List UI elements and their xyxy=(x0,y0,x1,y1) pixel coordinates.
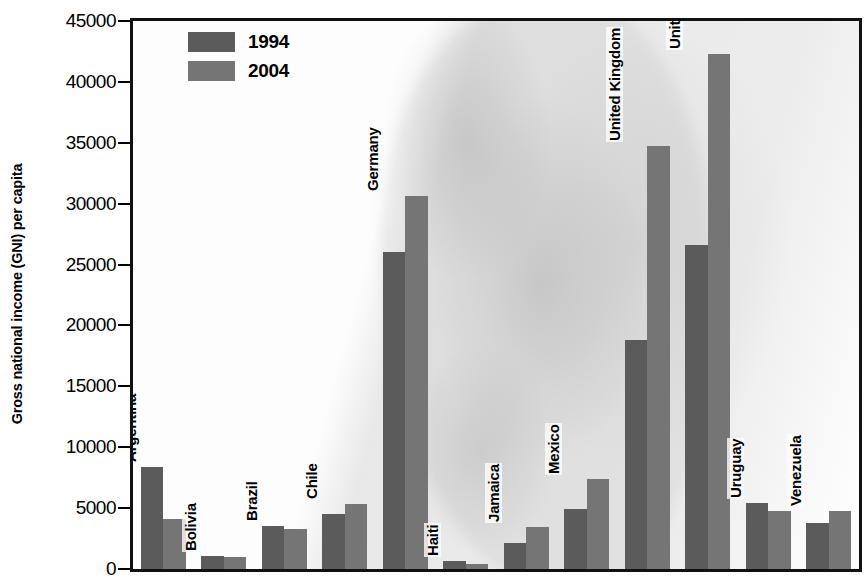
bar-2004 xyxy=(829,511,852,569)
legend-item: 2004 xyxy=(188,60,289,82)
y-tick-mark xyxy=(118,264,130,266)
bar-1994 xyxy=(383,252,406,569)
chart-screenshot: Gross national income (GNI) per capita 4… xyxy=(0,0,868,587)
bar-1994 xyxy=(806,523,829,569)
legend: 19942004 xyxy=(188,31,289,89)
bars-layer: ArgentinaBoliviaBrazilChileGermanyHaitiJ… xyxy=(133,21,859,569)
category-label: Uruguay xyxy=(727,438,744,499)
legend-item: 1994 xyxy=(188,31,289,53)
bar-1994 xyxy=(504,543,527,569)
bar-group: Venezuela xyxy=(799,21,860,569)
bar-2004 xyxy=(224,557,247,569)
legend-swatch xyxy=(188,32,235,52)
y-tick-mark xyxy=(118,385,130,387)
category-label: Brazil xyxy=(243,481,260,523)
bar-1994 xyxy=(564,509,587,569)
bar-1994 xyxy=(746,503,769,569)
category-label: Jamaica xyxy=(485,463,502,523)
category-label: United States xyxy=(666,18,683,50)
bar-2004 xyxy=(466,564,489,569)
category-label: Venezuela xyxy=(787,434,804,507)
bar-2004 xyxy=(345,504,368,569)
y-tick-label: 20000 xyxy=(66,314,116,336)
y-tick-mark xyxy=(118,507,130,509)
y-tick-label: 10000 xyxy=(66,436,116,458)
plot-area: ArgentinaBoliviaBrazilChileGermanyHaitiJ… xyxy=(130,18,862,572)
y-tick-label: 35000 xyxy=(66,132,116,154)
bar-1994 xyxy=(141,467,164,569)
category-label: Bolivia xyxy=(182,502,199,552)
y-tick-label: 25000 xyxy=(66,254,116,276)
y-tick-mark xyxy=(118,142,130,144)
bar-1994 xyxy=(443,561,466,569)
y-axis-title: Gross national income (GNI) per capita xyxy=(0,0,34,587)
y-tick-label: 45000 xyxy=(66,10,116,32)
legend-label: 2004 xyxy=(248,60,289,82)
bar-2004 xyxy=(526,527,549,569)
y-tick-label: 30000 xyxy=(66,193,116,215)
y-axis-tick-labels: 4500040000350003000025000200001500010000… xyxy=(34,0,130,587)
bar-1994 xyxy=(685,245,708,569)
y-tick-mark xyxy=(118,446,130,448)
bar-group: Germany xyxy=(375,21,436,569)
category-label: Argentina xyxy=(130,393,139,463)
y-tick-mark xyxy=(118,20,130,22)
bar-group: Argentina xyxy=(133,21,194,569)
y-tick-label: 15000 xyxy=(66,375,116,397)
legend-label: 1994 xyxy=(248,31,289,53)
bar-1994 xyxy=(322,514,345,569)
bar-2004 xyxy=(768,511,791,569)
bar-2004 xyxy=(405,196,428,569)
bar-2004 xyxy=(647,146,670,569)
y-tick-label: 0 xyxy=(106,558,116,580)
category-label: Germany xyxy=(364,127,381,193)
bar-group: United Kingdom xyxy=(617,21,678,569)
y-axis-title-text: Gross national income (GNI) per capita xyxy=(9,163,25,424)
bar-1994 xyxy=(625,340,648,569)
category-label: United Kingdom xyxy=(606,27,623,142)
bar-group: Jamaica xyxy=(496,21,557,569)
y-tick-label: 40000 xyxy=(66,71,116,93)
y-tick-mark xyxy=(118,203,130,205)
category-label: Mexico xyxy=(545,423,562,475)
y-tick-mark xyxy=(118,568,130,570)
bar-2004 xyxy=(284,529,307,569)
category-label: Haiti xyxy=(424,524,441,558)
legend-swatch xyxy=(188,61,235,81)
bar-1994 xyxy=(262,526,285,569)
bar-1994 xyxy=(201,556,224,569)
bar-2004 xyxy=(587,479,610,569)
category-label: Chile xyxy=(303,463,320,501)
y-tick-mark xyxy=(118,324,130,326)
y-tick-label: 5000 xyxy=(76,497,116,519)
y-tick-mark xyxy=(118,81,130,83)
bar-group: Chile xyxy=(315,21,376,569)
